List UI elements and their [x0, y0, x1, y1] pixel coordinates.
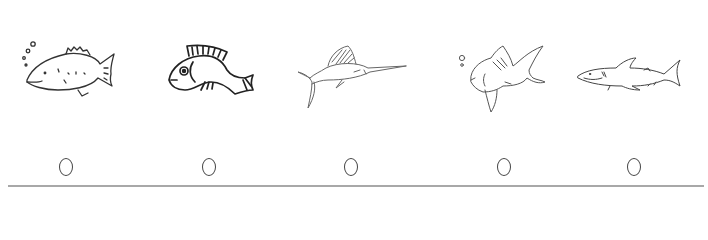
- cartoon-fish-icon: [165, 42, 257, 100]
- cartoon-fish-picture: [165, 42, 257, 100]
- option-radio-a[interactable]: Sketched bulky fish with bubbles: [59, 158, 73, 176]
- goldfish-with-bubbles-icon: [457, 44, 549, 114]
- option-radio-d[interactable]: Sketched goldfish with bubbles: [497, 158, 511, 176]
- goldfish-with-bubbles-picture: [457, 44, 549, 114]
- shark-icon: [576, 56, 686, 92]
- divider-line: [8, 185, 704, 187]
- option-radio-e[interactable]: Sketched shark / tuna: [627, 158, 641, 176]
- fish-with-bubbles-picture: [18, 38, 123, 103]
- sailfish-icon: [298, 42, 408, 112]
- option-radio-b[interactable]: Bold-outline cartoon fish: [202, 158, 216, 176]
- sailfish-picture: [298, 42, 408, 112]
- option-radio-c[interactable]: Sketched sailfish / marlin: [344, 158, 358, 176]
- fish-with-bubbles-icon: [18, 38, 123, 103]
- shark-picture: [576, 56, 686, 92]
